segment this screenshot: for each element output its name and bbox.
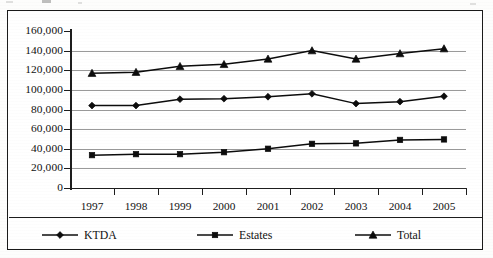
series-estates [89, 137, 446, 158]
data-point-ktda [133, 102, 140, 109]
legend-marker-square [212, 232, 217, 237]
series-total [88, 45, 448, 77]
legend-marker-triangle-icon [353, 228, 393, 242]
legend-marker-diamond [57, 232, 64, 239]
data-series-layer [8, 11, 484, 251]
legend-label-ktda: KTDA [84, 229, 117, 242]
legend-marker-square-icon [195, 228, 235, 242]
scan-artifact-speck [42, 0, 51, 3]
data-point-estates [397, 137, 402, 142]
legend-marker-diamond-icon [40, 228, 80, 242]
legend-divider [9, 217, 483, 218]
chart-frame: 160,000140,000120,000100,00080,00060,000… [7, 10, 483, 250]
data-point-estates [177, 151, 182, 156]
data-point-total [308, 47, 316, 54]
data-point-estates [353, 141, 358, 146]
data-point-estates [265, 146, 270, 151]
data-point-estates [89, 152, 94, 157]
scan-artifact-speck [6, 1, 13, 3]
data-point-estates [133, 151, 138, 156]
data-point-ktda [177, 96, 184, 103]
scan-artifact-speck [78, 2, 82, 4]
legend-item-total[interactable]: Total [353, 226, 421, 244]
scan-artifact-speck [470, 3, 476, 5]
data-point-ktda [397, 98, 404, 105]
data-point-ktda [221, 95, 228, 102]
data-point-estates [309, 141, 314, 146]
plot-region: 160,000140,000120,000100,00080,00060,000… [8, 11, 484, 251]
data-point-ktda [353, 100, 360, 107]
data-point-ktda [441, 93, 448, 100]
data-point-ktda [309, 90, 316, 97]
legend-label-estates: Estates [239, 229, 272, 242]
legend-item-ktda[interactable]: KTDA [40, 226, 117, 244]
data-point-ktda [265, 93, 272, 100]
data-point-estates [221, 149, 226, 154]
data-point-estates [441, 137, 446, 142]
legend-label-total: Total [397, 229, 421, 242]
chart-legend: KTDA Estates Total [8, 219, 484, 250]
chart-screenshot: 160,000140,000120,000100,00080,00060,000… [0, 0, 493, 258]
data-point-ktda [89, 102, 96, 109]
series-ktda [89, 90, 448, 109]
legend-item-estates[interactable]: Estates [195, 226, 272, 244]
